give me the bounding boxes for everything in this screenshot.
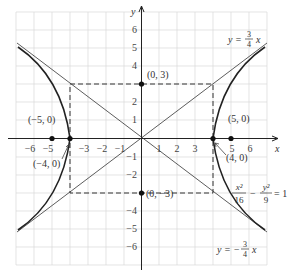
svg-text:y =: y =: [227, 34, 242, 45]
svg-text:4: 4: [243, 250, 247, 259]
label-vertex-right: (4, 0): [226, 152, 248, 164]
svg-text:2: 2: [132, 96, 137, 107]
hyperbola-equation-label: x² 16 − y² 9 = 1: [232, 182, 287, 205]
svg-text:9: 9: [264, 195, 269, 205]
svg-text:3: 3: [193, 143, 198, 154]
point-bottom: [139, 190, 144, 195]
point-focus-left: [49, 136, 54, 141]
svg-text:−5: −5: [126, 223, 137, 234]
svg-text:y = −: y = −: [216, 244, 240, 255]
svg-text:16: 16: [235, 195, 245, 205]
asymptote-upper-label: y = 3 4 x: [227, 30, 261, 49]
svg-text:1: 1: [157, 143, 162, 154]
svg-text:2: 2: [175, 143, 180, 154]
svg-text:1: 1: [132, 114, 137, 125]
svg-text:−2: −2: [126, 169, 137, 180]
svg-text:6: 6: [248, 143, 253, 154]
svg-text:−6: −6: [25, 143, 36, 154]
svg-text:x: x: [251, 244, 257, 255]
svg-text:−4: −4: [126, 205, 137, 216]
svg-text:= 1: = 1: [274, 188, 287, 199]
point-vertex-right: [210, 136, 215, 141]
svg-text:−5: −5: [43, 143, 54, 154]
svg-text:−: −: [250, 188, 256, 199]
svg-text:−2: −2: [97, 143, 108, 154]
svg-text:3: 3: [247, 30, 251, 39]
label-focus-right: (5, 0): [228, 113, 250, 125]
svg-text:3: 3: [243, 240, 247, 249]
point-vertex-left: [67, 136, 72, 141]
asymptote-lower-label: y = − 3 4 x: [216, 240, 257, 259]
svg-text:−1: −1: [126, 151, 137, 162]
label-bottom: (0, −3): [146, 188, 173, 200]
label-vertex-left: (−4, 0): [33, 158, 60, 170]
label-focus-left: (−5, 0): [28, 114, 55, 126]
svg-text:6: 6: [132, 24, 137, 35]
svg-text:4: 4: [247, 40, 251, 49]
svg-text:x: x: [255, 34, 261, 45]
svg-text:5: 5: [132, 42, 137, 53]
point-top: [139, 81, 144, 86]
svg-text:−3: −3: [79, 143, 90, 154]
label-top: (0, 3): [147, 69, 169, 81]
x-tick-labels: −6 −5 −4 −3 −2 −1 1 2 3 4 5 6: [25, 143, 253, 154]
svg-text:−6: −6: [126, 241, 137, 252]
point-focus-right: [228, 136, 233, 141]
svg-text:y²: y²: [262, 182, 270, 192]
svg-text:4: 4: [132, 60, 137, 71]
pointer-vertex-right-icon: [215, 143, 226, 155]
hyperbola-diagram: x y −6 −5 −4 −3 −2 −1 1 2 3 4 5 6 6 5 4 …: [0, 0, 294, 280]
svg-text:−1: −1: [115, 143, 126, 154]
x-axis-label: x: [274, 143, 280, 154]
y-axis-label: y: [130, 6, 136, 17]
svg-text:x²: x²: [235, 182, 243, 192]
